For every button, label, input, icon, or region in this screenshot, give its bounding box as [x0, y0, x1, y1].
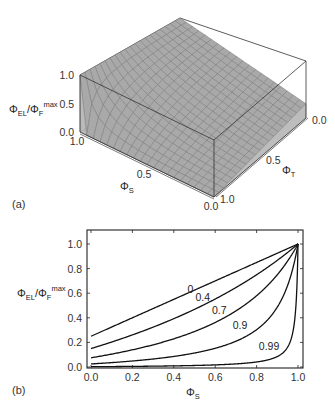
surface-plot-3d: 0.00.51.0ΦEL/ΦFmax1.00.50.0ΦS0.00.51.0ΦT [0, 0, 335, 215]
z-tick-label: 1.0 [59, 69, 74, 81]
y-axis-label: ΦT [282, 164, 296, 179]
x-tick-label: 0.2 [125, 371, 140, 383]
x-tick-label: 0.0 [84, 371, 99, 383]
y-tick-label: 0.4 [67, 312, 82, 324]
curve-label: 0.7 [212, 304, 227, 316]
curves [91, 244, 298, 367]
curve-phiT-0_99 [91, 244, 298, 367]
x-tick-label: 0.6 [208, 371, 223, 383]
curve-phiT-0_4 [91, 244, 298, 349]
x-tick-label: 0.8 [249, 371, 264, 383]
y-tick-label: 0.0 [312, 114, 327, 126]
x-tick-label: 0.5 [137, 168, 152, 180]
axis-ticks: 0.00.20.40.60.81.00.00.20.40.60.81.0 [67, 230, 305, 383]
z-axis-label: ΦEL/ΦFmax [9, 100, 58, 118]
y-tick-label: 0.2 [67, 336, 82, 348]
x-tick-label: 1.0 [291, 371, 306, 383]
plot-frame [87, 230, 303, 368]
x-tick-label: 0.4 [166, 371, 181, 383]
y-tick-label: 0.5 [266, 154, 281, 166]
curve-phiT-0 [91, 244, 298, 336]
y-tick-label: 0.6 [67, 287, 82, 299]
x-tick-label: 1.0 [70, 135, 85, 147]
panel-label-b: (b) [12, 384, 25, 396]
x-tick-label: 0.0 [204, 200, 219, 212]
z-tick-label: 0.5 [59, 98, 74, 110]
curve-phiT-0_7 [91, 244, 298, 358]
x-axis-label: ΦS [186, 386, 200, 401]
y-tick-label: 0.8 [67, 263, 82, 275]
curve-label: 0 [187, 283, 193, 295]
curve-label: 0.99 [259, 340, 280, 352]
surface-mesh [80, 18, 306, 197]
x-axis-label: ΦS [120, 180, 134, 195]
curve-label: 0.9 [233, 319, 248, 331]
y-tick-label: 1.0 [220, 193, 235, 205]
curve-label: 0.4 [195, 291, 210, 303]
y-tick-label: 1.0 [67, 238, 82, 250]
y-axis-label: ΦEL/ΦFmax [17, 284, 66, 302]
z-axis-ticks: 0.00.51.0 [59, 69, 74, 138]
curve-phiT-0_9 [91, 244, 298, 364]
y-tick-label: 0.0 [67, 361, 82, 373]
